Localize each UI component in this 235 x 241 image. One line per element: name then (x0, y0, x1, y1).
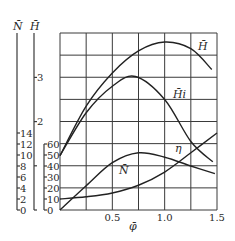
plot-grid (60, 33, 217, 210)
eta-curve-label: η (175, 142, 182, 155)
x-tick-label: 0.5 (104, 212, 120, 223)
x-tick-label: 1.0 (157, 212, 173, 223)
y-tick-label: 4 (20, 183, 26, 194)
h-axis-label: H̄ (29, 20, 40, 33)
x-tick-label: 1.5 (209, 212, 225, 223)
hi-curve-label: H̄i (172, 88, 186, 101)
y-tick-label: 30 (47, 172, 60, 183)
x-axis-ticks: 0.51.01.5 (104, 212, 225, 223)
y-axes: 02468101214230102030405060 (17, 33, 60, 216)
y-tick-label: 60 (47, 139, 60, 150)
chart-canvas: 02468101214230102030405060 0.51.01.5 N̄ … (0, 0, 235, 241)
y-tick-label: 2 (20, 194, 26, 205)
y-tick-label: 0 (20, 205, 26, 216)
n-axis-label: N̄ (12, 20, 23, 33)
y-tick-label: 3 (37, 72, 43, 83)
y-tick-label: 10 (20, 150, 33, 161)
y-tick-label: 10 (47, 194, 60, 205)
y-tick-label: 6 (20, 172, 26, 183)
y-tick-label: 12 (20, 139, 33, 150)
performance-chart: 02468101214230102030405060 0.51.01.5 N̄ … (0, 0, 235, 241)
y-tick-label: 40 (47, 161, 60, 172)
curve-η (60, 153, 215, 210)
y-tick-label: 2 (37, 116, 43, 127)
y-tick-label: 8 (20, 161, 26, 172)
n-curve-label: N̄ (118, 164, 129, 177)
x-axis-label: φ̄ (129, 220, 137, 233)
y-tick-label: 14 (20, 128, 33, 139)
y-tick-label: 20 (47, 183, 60, 194)
curve-H̄i (60, 76, 213, 162)
y-tick-label: 50 (47, 150, 60, 161)
h-curve-label: H̄ (197, 40, 208, 53)
y-tick-label: 0 (47, 205, 53, 216)
